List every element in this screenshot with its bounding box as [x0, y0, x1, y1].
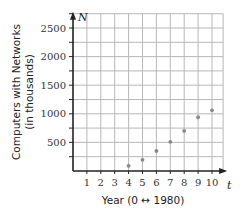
- x-tick-label: 6: [153, 177, 159, 188]
- x-tick-label: 10: [206, 177, 219, 188]
- x-axis-variable: t: [227, 179, 232, 192]
- data-point: [141, 158, 145, 162]
- x-tick-label: 3: [112, 177, 118, 188]
- y-axis-label-line2: (in thousands): [23, 54, 35, 130]
- y-tick-label: 1500: [41, 80, 66, 91]
- y-axis-label: Computers with Networks (in thousands): [10, 24, 35, 160]
- x-tick-label: 9: [195, 177, 201, 188]
- axes: [70, 12, 227, 174]
- data-point: [155, 149, 159, 153]
- y-tick-label: 2500: [41, 23, 66, 34]
- y-tick-label: 1000: [41, 108, 66, 119]
- y-axis-label-line1: Computers with Networks: [10, 24, 22, 160]
- data-point: [168, 140, 172, 144]
- y-tick-label: 500: [47, 137, 66, 148]
- y-tick-label: 2000: [41, 51, 66, 62]
- x-tick-label: 2: [98, 177, 104, 188]
- x-ticks: 12345678910: [84, 171, 219, 188]
- x-tick-label: 4: [125, 177, 131, 188]
- y-axis-variable: N: [77, 11, 88, 24]
- x-tick-label: 8: [181, 177, 187, 188]
- y-axis-arrow-icon: [70, 12, 76, 20]
- data-point: [127, 164, 131, 168]
- data-point: [196, 115, 200, 119]
- grid: [73, 14, 223, 171]
- data-point: [210, 108, 214, 112]
- data-point: [182, 129, 186, 133]
- x-tick-label: 1: [84, 177, 90, 188]
- y-ticks: 5001000150020002500: [41, 14, 73, 157]
- scatter-chart: 5001000150020002500 12345678910 N t Year…: [0, 0, 240, 219]
- x-tick-label: 7: [167, 177, 173, 188]
- x-tick-label: 5: [139, 177, 145, 188]
- x-axis-label: Year (0 ↔ 1980): [101, 194, 185, 206]
